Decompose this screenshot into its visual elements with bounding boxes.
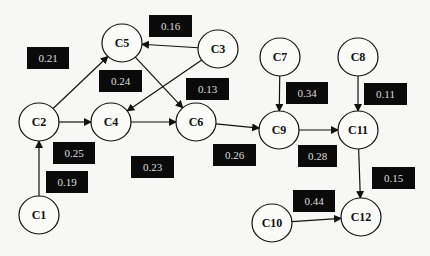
graph-canvas: 0.210.160.240.130.250.190.230.340.110.26… (0, 0, 430, 256)
weight-value: 0.26 (225, 149, 245, 161)
weight-label: 0.44 (293, 190, 335, 212)
weight-value: 0.11 (376, 88, 395, 100)
weight-label: 0.34 (286, 82, 328, 104)
edge-c6-c9 (216, 124, 259, 128)
node-c10: C10 (252, 204, 292, 242)
weight-value: 0.24 (111, 75, 131, 87)
weight-label: 0.26 (213, 144, 256, 166)
weight-value: 0.13 (198, 83, 218, 95)
weight-value: 0.15 (384, 172, 404, 184)
edge-c3-c5 (142, 44, 198, 48)
node-c1: C1 (19, 196, 59, 234)
node-label: C8 (351, 50, 366, 64)
node-c9: C9 (259, 111, 299, 149)
node-c12: C12 (341, 198, 381, 236)
node-label: C9 (272, 123, 287, 137)
weight-label: 0.25 (53, 142, 95, 164)
weight-value: 0.21 (38, 52, 57, 64)
node-label: C1 (32, 208, 47, 222)
node-label: C12 (351, 210, 372, 224)
node-c8: C8 (338, 38, 378, 76)
node-c7: C7 (260, 38, 300, 76)
weight-label: 0.13 (186, 78, 229, 100)
weight-value: 0.34 (297, 87, 317, 99)
weight-value: 0.28 (308, 150, 328, 162)
weight-label: 0.19 (46, 171, 88, 193)
node-c2: C2 (19, 103, 59, 141)
node-label: C3 (211, 42, 226, 56)
node-label: C4 (104, 115, 119, 129)
weight-label: 0.16 (149, 15, 192, 37)
weight-label: 0.21 (27, 47, 69, 69)
node-label: C2 (32, 115, 47, 129)
weight-value: 0.44 (304, 195, 324, 207)
node-label: C6 (189, 115, 204, 129)
node-label: C11 (348, 123, 368, 137)
weight-label: 0.24 (99, 70, 142, 92)
node-label: C5 (115, 36, 130, 50)
node-c6: C6 (176, 103, 216, 141)
weight-value: 0.23 (143, 161, 163, 173)
node-c11: C11 (338, 111, 378, 149)
node-c4: C4 (91, 103, 131, 141)
weight-label: 0.15 (372, 167, 415, 189)
weight-value: 0.19 (57, 176, 77, 188)
node-c5: C5 (102, 24, 142, 62)
edge-c10-c12 (292, 218, 341, 221)
weight-value: 0.25 (64, 147, 84, 159)
weight-label: 0.11 (364, 83, 407, 105)
node-c3: C3 (198, 30, 238, 68)
weight-label: 0.23 (131, 156, 174, 178)
node-label: C7 (273, 50, 288, 64)
edge-c11-c12 (359, 149, 361, 198)
weight-label: 0.28 (298, 145, 337, 167)
weight-value: 0.16 (161, 20, 181, 32)
node-label: C10 (262, 216, 283, 230)
